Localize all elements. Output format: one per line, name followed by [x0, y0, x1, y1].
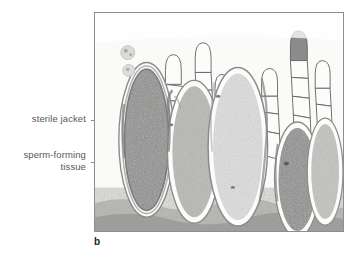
label-sterile-jacket: sterile jacket: [6, 113, 86, 125]
micrograph-image: [95, 13, 343, 231]
panel-letter: b: [94, 236, 100, 248]
figure-root: sterile jacket sperm-forming tissue b: [0, 0, 361, 259]
label-sperm-forming-tissue: sperm-forming tissue: [2, 149, 86, 172]
micrograph-frame: [94, 12, 344, 232]
